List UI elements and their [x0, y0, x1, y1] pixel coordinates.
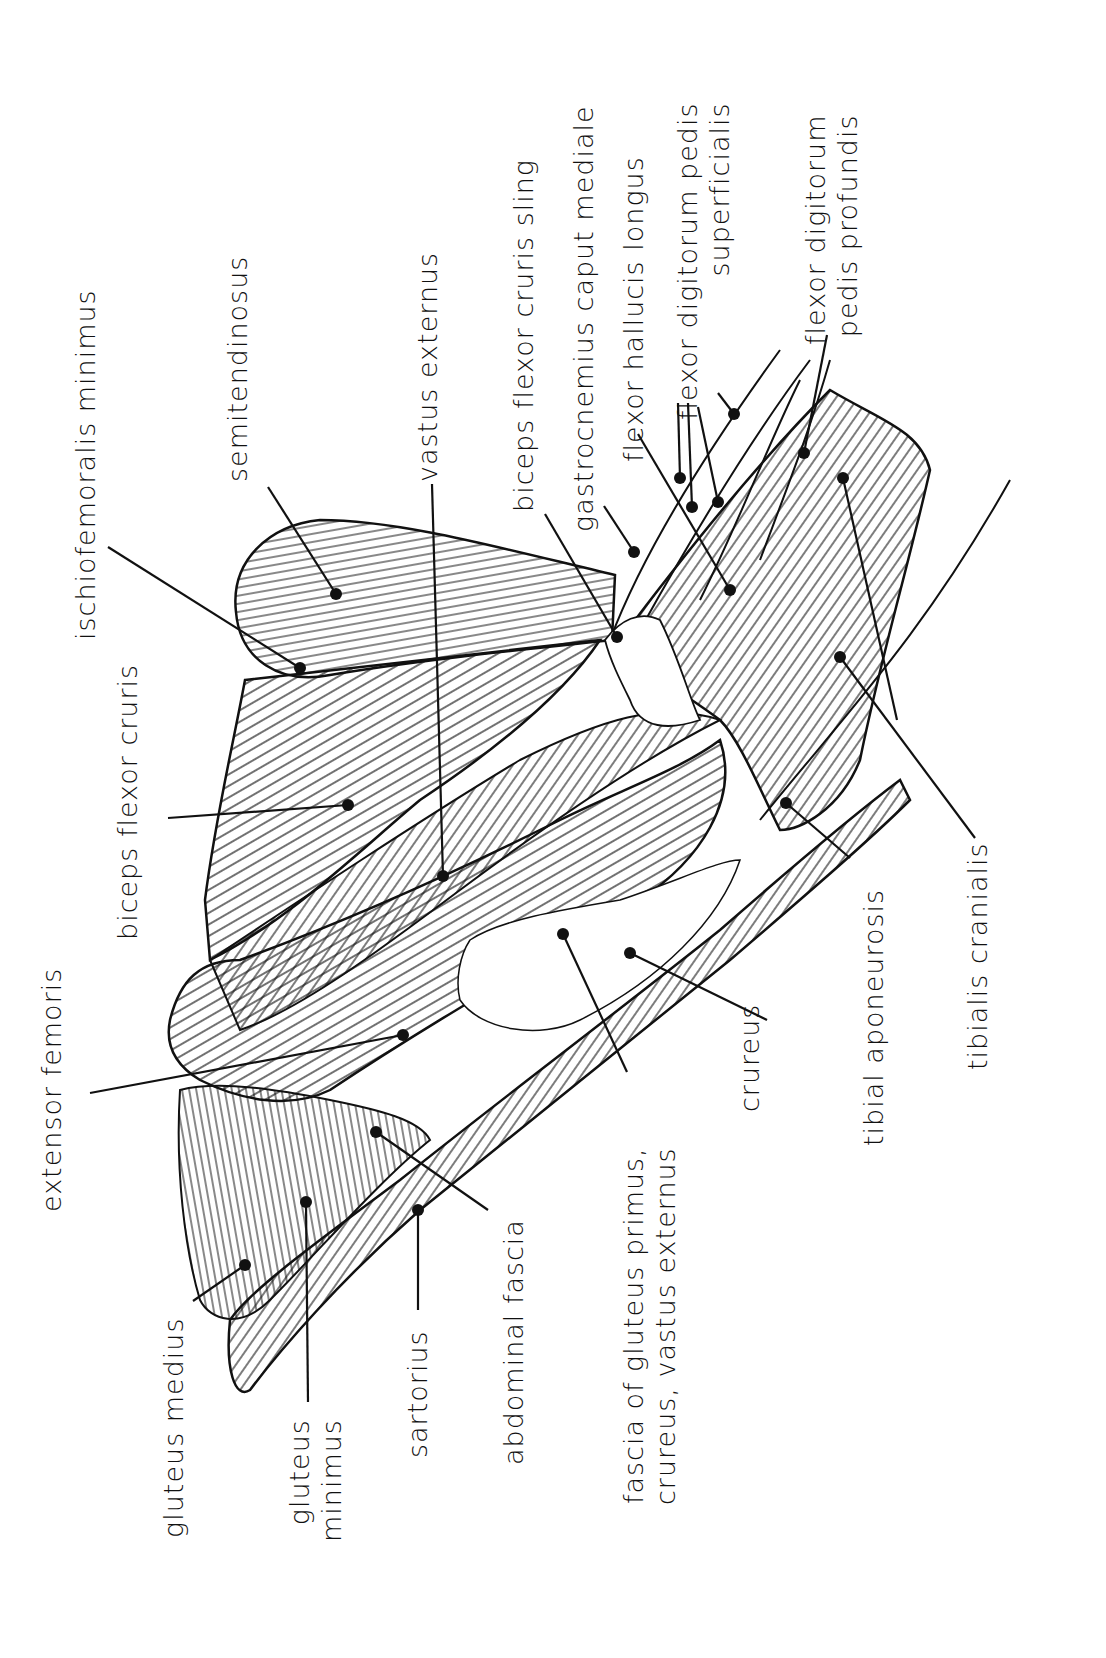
label-flexor-hallucis-longus: flexor hallucis longus [618, 156, 650, 462]
label-tibial-aponeurosis: tibial aponeurosis [858, 889, 890, 1146]
tibialis-cranialis-muscle [620, 390, 930, 830]
label-extensor-femoris: extensor femoris [36, 968, 68, 1212]
label-gluteus-minimus: gluteusminimus [284, 1419, 348, 1542]
label-gastrocnemius-caput-mediale: gastrocnemius caput mediale [568, 105, 600, 532]
label-abdominal-fascia: abdominal fascia [498, 1219, 530, 1465]
label-fascia-gluteus-primus: fascia of gluteus primus,crureus, vastus… [618, 1147, 682, 1505]
label-ischiofemoralis-minimus: ischiofemoralis minimus [70, 289, 102, 640]
label-vastus-externus: vastus externus [412, 252, 444, 482]
label-sartorius: sartorius [402, 1330, 434, 1458]
label-flexor-digitorum-pedis-superficialis: flexor digitorum pedissuperficialis [672, 103, 736, 421]
label-gluteus-medius: gluteus medius [158, 1317, 190, 1538]
label-crureus: crureus [734, 1004, 766, 1112]
label-biceps-flexor-cruris: biceps flexor cruris [112, 664, 144, 940]
label-flexor-digitorum-pedis-profundis: flexor digitorumpedis profundis [800, 115, 864, 345]
label-semitendinosus: semitendinosus [222, 256, 254, 482]
label-tibialis-cranialis: tibialis cranialis [962, 842, 994, 1070]
label-biceps-flexor-cruris-sling: biceps flexor cruris sling [508, 159, 540, 512]
